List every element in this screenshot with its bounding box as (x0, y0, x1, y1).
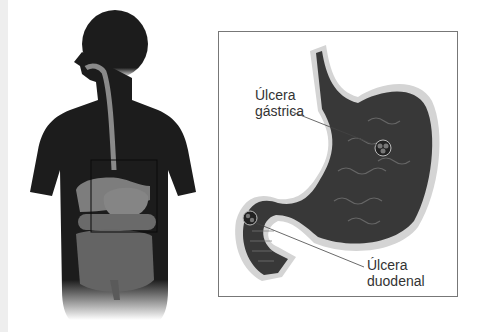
human-silhouette-illustration (0, 0, 210, 332)
duodenal-ulcer-label: Úlcera duodenal (367, 257, 425, 289)
digestive-organs (76, 178, 156, 301)
duodenal-ulcer-label-line1: Úlcera (367, 257, 425, 273)
gastric-ulcer-label-line2: gástrica (255, 103, 304, 119)
gastric-ulcer-label-line1: Úlcera (255, 87, 304, 103)
duodenal-ulcer-label-line2: duodenal (367, 273, 425, 289)
gastric-ulcer-marker (375, 140, 391, 156)
gastric-ulcer-label: Úlcera gástrica (255, 87, 304, 119)
duodenal-ulcer-marker (243, 211, 257, 225)
